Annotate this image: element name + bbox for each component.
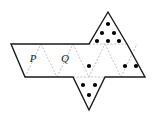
polyhedron-net-figure: PQ (0, 0, 159, 124)
face-top-dot-4 (95, 39, 99, 43)
fold-mid-left (73, 44, 89, 77)
face-bottom-dot-2 (93, 83, 97, 87)
net-diagram-canvas: PQ (0, 0, 159, 124)
fold-lines-group (25, 44, 137, 77)
fold-q-left (41, 44, 57, 77)
face-bottom-dot-3 (87, 93, 91, 97)
fold-mid-right (89, 44, 105, 77)
face-top-dot-5 (106, 39, 110, 43)
face-center-dot-1 (87, 64, 91, 68)
face-top-dot-6 (117, 39, 121, 43)
face-right-dot-1 (123, 64, 127, 68)
fold-right (105, 44, 121, 77)
face-bottom-dot-1 (81, 83, 85, 87)
face-top-dot-1 (106, 22, 110, 26)
face-label-q: Q (61, 52, 69, 64)
face-labels-group: PQ (29, 52, 69, 64)
face-top-dot-2 (100, 31, 104, 35)
face-top-dot-3 (112, 31, 116, 35)
face-label-p: P (29, 52, 37, 64)
face-right-dot-2 (134, 64, 138, 68)
